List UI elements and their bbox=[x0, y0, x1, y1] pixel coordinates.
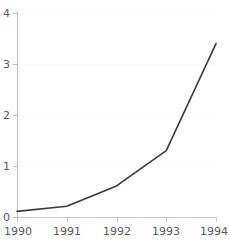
data-series-line bbox=[17, 44, 216, 212]
series-svg bbox=[0, 0, 230, 246]
line-chart-figure: 4 3 2 1 0 1990 1991 1992 1993 1994 bbox=[0, 0, 230, 246]
